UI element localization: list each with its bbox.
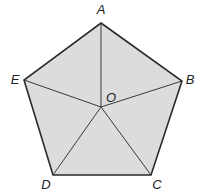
pentagon-diagram: A B C D E O	[0, 0, 200, 196]
pentagon-shape	[24, 23, 182, 175]
diagram-svg: A B C D E O	[0, 0, 200, 196]
vertex-label-a: A	[96, 2, 106, 17]
center-label-o: O	[106, 90, 116, 105]
vertex-label-c: C	[152, 177, 162, 192]
vertex-label-e: E	[11, 72, 20, 87]
vertex-label-b: B	[186, 72, 195, 87]
vertex-label-d: D	[41, 177, 50, 192]
